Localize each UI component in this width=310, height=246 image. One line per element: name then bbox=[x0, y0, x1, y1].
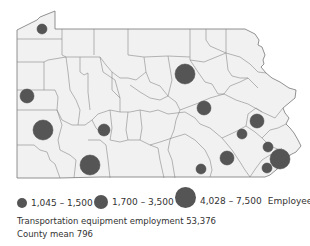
symbol-west-mercer bbox=[20, 89, 34, 103]
symbol-east-lehigh bbox=[250, 114, 264, 128]
map-legend: 1,045 – 1,500 1,700 – 3,500 4,028 – 7,50… bbox=[0, 190, 310, 246]
large-circle-icon bbox=[175, 187, 196, 208]
symbol-central-blair bbox=[98, 124, 110, 136]
legend-item-small: 1,045 – 1,500 bbox=[17, 195, 93, 211]
legend-label-medium: 1,700 – 3,500 bbox=[112, 197, 174, 207]
legend-label-large: 4,028 – 7,500 bbox=[200, 196, 262, 206]
symbol-nw-erie bbox=[37, 24, 47, 34]
symbol-berks bbox=[237, 129, 247, 139]
county-mean-note: County mean 796 bbox=[17, 229, 93, 239]
symbol-york bbox=[196, 164, 206, 174]
total-employment-note: Transportation equipment employment 53,3… bbox=[17, 216, 216, 226]
legend-item-large: 4,028 – 7,500 Employees bbox=[175, 186, 310, 212]
symbol-southwest-beaver bbox=[33, 120, 53, 140]
legend-item-medium: 1,700 – 3,500 bbox=[94, 193, 174, 211]
legend-unit: Employees bbox=[268, 196, 310, 206]
legend-label-small: 1,045 – 1,500 bbox=[31, 198, 93, 208]
symbol-lancaster bbox=[220, 151, 234, 165]
symbol-delaware bbox=[262, 163, 272, 173]
symbol-montgomery bbox=[263, 142, 273, 152]
symbol-philadelphia bbox=[270, 149, 290, 169]
small-circle-icon bbox=[17, 198, 27, 208]
symbol-north-central bbox=[175, 64, 195, 84]
medium-circle-icon bbox=[94, 195, 108, 209]
symbol-south-somerset bbox=[80, 155, 100, 175]
pennsylvania-county-map bbox=[0, 0, 310, 190]
symbol-central-union bbox=[197, 101, 211, 115]
